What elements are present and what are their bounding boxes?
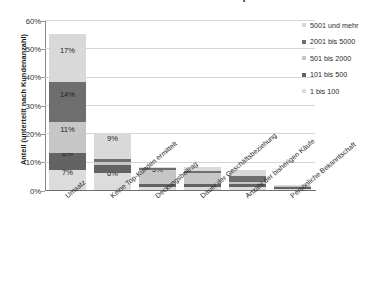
- legend-item[interactable]: 1 bis 100: [302, 83, 386, 100]
- bar-group[interactable]: 7%6%11%14%17%: [49, 20, 86, 190]
- bar-segment[interactable]: [94, 133, 131, 159]
- y-tick-label: 40%: [7, 73, 41, 82]
- chart-title: Anhand welchem Kriterium ermitteln Sie I…: [22, 0, 322, 2]
- stacked-bar-chart: Anhand welchem Kriterium ermitteln Sie I…: [0, 0, 386, 281]
- y-tick-label: 0%: [7, 186, 41, 195]
- legend-label: 2001 bis 5000: [310, 37, 355, 46]
- y-tick-label: 50%: [7, 44, 41, 53]
- y-tick-label: 20%: [7, 129, 41, 138]
- legend-label: 101 bis 500: [310, 70, 347, 79]
- bar-segment[interactable]: [94, 162, 131, 165]
- legend-swatch-icon: [302, 89, 306, 93]
- legend-swatch-icon: [302, 73, 306, 77]
- bar-segment[interactable]: [94, 159, 131, 162]
- y-tick-label: 30%: [7, 101, 41, 110]
- bar-segment[interactable]: [49, 122, 86, 153]
- legend-swatch-icon: [302, 40, 306, 44]
- legend-swatch-icon: [302, 23, 306, 27]
- legend-item[interactable]: 2001 bis 5000: [302, 34, 386, 51]
- y-tick-label: 10%: [7, 158, 41, 167]
- bar-group[interactable]: 6%3%9%: [94, 20, 131, 190]
- x-axis-line: [45, 190, 316, 191]
- plot-area: 7%6%11%14%17%6%3%9%5%4%: [45, 20, 315, 190]
- bar-segment[interactable]: [49, 34, 86, 82]
- chart-legend: 5001 und mehr2001 bis 5000501 bis 200010…: [302, 17, 386, 100]
- bar-segment[interactable]: [49, 153, 86, 170]
- legend-label: 5001 und mehr: [310, 21, 358, 30]
- y-axis-ticks: 0%10%20%30%40%50%60%: [0, 20, 41, 191]
- bar-segment[interactable]: [49, 82, 86, 122]
- legend-item[interactable]: 501 bis 2000: [302, 50, 386, 67]
- legend-label: 501 bis 2000: [310, 54, 351, 63]
- bar-segment[interactable]: [94, 165, 131, 174]
- legend-label: 1 bis 100: [310, 87, 339, 96]
- legend-item[interactable]: 101 bis 500: [302, 67, 386, 84]
- legend-swatch-icon: [302, 56, 306, 60]
- legend-item[interactable]: 5001 und mehr: [302, 17, 386, 34]
- y-tick-label: 60%: [7, 16, 41, 25]
